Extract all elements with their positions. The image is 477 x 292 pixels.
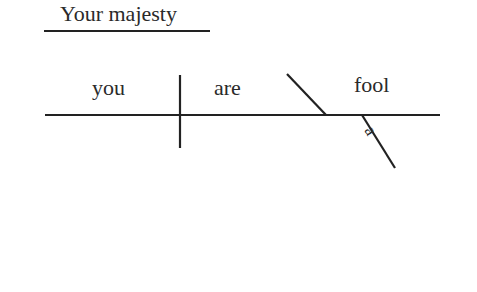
diagram-lines bbox=[0, 0, 477, 292]
complement-slant-line bbox=[287, 74, 326, 115]
modifier-line bbox=[362, 115, 395, 168]
predicate-nominative-word: fool bbox=[354, 74, 389, 96]
address-word: Your majesty bbox=[60, 3, 177, 25]
sentence-diagram: Your majesty you are fool a bbox=[0, 0, 477, 292]
subject-word: you bbox=[92, 77, 125, 99]
verb-word: are bbox=[214, 77, 241, 99]
